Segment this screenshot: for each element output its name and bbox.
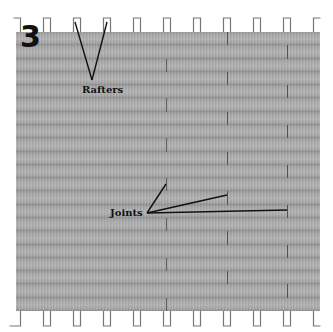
- rafter-bottom-end: [104, 311, 111, 326]
- rafters-label: Rafters: [82, 84, 123, 95]
- rafter-bottom-end: [194, 311, 201, 326]
- joints-leader-lines: [147, 184, 287, 213]
- rafter-bottom-end: [134, 311, 141, 326]
- rafter-bottom-end: [164, 311, 171, 326]
- rafter-top-end: [194, 18, 201, 32]
- rafter-top-end: [314, 18, 321, 32]
- rafter-bottom-end: [44, 311, 51, 326]
- rafter-bottom-end: [284, 311, 291, 326]
- sheathing-diagram: 3 Rafters Joints: [0, 0, 333, 332]
- rafter-bottom-end: [254, 311, 261, 326]
- rafter-top-end: [254, 18, 261, 32]
- rafter-bottom-end: [74, 311, 81, 326]
- joints-label: Joints: [110, 207, 143, 218]
- rafter-top-end: [224, 18, 231, 32]
- rafter-top-end: [284, 18, 291, 32]
- figure-number: 3: [20, 22, 41, 52]
- rafter-bottom-end: [10, 311, 21, 326]
- rafter-top-end: [44, 18, 51, 32]
- rafter-bottom-end: [314, 311, 321, 326]
- rafter-top-end: [134, 18, 141, 32]
- rafters-leader-lines: [75, 22, 107, 80]
- rafter-bottoms: [10, 311, 321, 326]
- rafter-top-end: [164, 18, 171, 32]
- rafter-bottom-end: [224, 311, 231, 326]
- rafter-tops: [14, 18, 321, 32]
- diagram-overlay: [0, 0, 333, 332]
